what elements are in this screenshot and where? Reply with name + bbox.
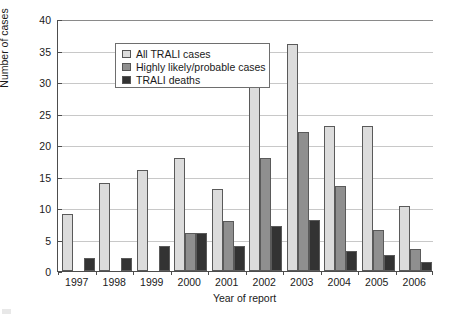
x-axis-tick — [58, 271, 59, 275]
y-axis-tick-label: 15 — [7, 173, 51, 183]
bar — [373, 230, 384, 271]
bar-group — [62, 19, 95, 271]
legend-swatch-icon — [122, 76, 131, 84]
bar — [196, 233, 207, 271]
legend-swatch-icon — [122, 63, 131, 71]
bar — [346, 251, 357, 271]
x-axis-tick — [96, 271, 97, 275]
x-axis-title: Year of report — [57, 292, 432, 304]
y-axis-tick-label: 35 — [7, 47, 51, 57]
bar — [212, 189, 223, 271]
legend-swatch-icon — [122, 50, 131, 58]
legend-label: TRALI deaths — [136, 74, 200, 86]
bar — [410, 249, 421, 271]
bar — [298, 132, 309, 271]
legend-label: Highly likely/probable cases — [136, 61, 266, 73]
bar — [185, 233, 196, 271]
bar-chart-figure: Number of cases 0510152025303540 1997199… — [0, 0, 452, 317]
legend-item: All TRALI cases — [122, 47, 269, 60]
bar — [362, 126, 373, 271]
x-axis-tick — [283, 271, 284, 275]
bar — [174, 158, 185, 271]
scan-artifact — [2, 309, 11, 314]
legend-item: Highly likely/probable cases — [122, 60, 269, 73]
bar — [384, 255, 395, 271]
bar — [159, 246, 170, 271]
bar — [324, 126, 335, 271]
bar — [234, 246, 245, 271]
bar — [287, 44, 298, 271]
bar-group — [399, 19, 432, 271]
x-axis-tick — [208, 271, 209, 275]
plot-area: 1997199819992000200120022003200420052006… — [57, 20, 432, 272]
x-axis-tick — [171, 271, 172, 275]
bar — [271, 226, 282, 271]
y-axis-tick-label: 40 — [7, 15, 51, 25]
x-axis-tick — [358, 271, 359, 275]
bar — [399, 206, 410, 271]
bar — [62, 214, 73, 271]
x-axis-tick — [133, 271, 134, 275]
y-axis-tick-label: 10 — [7, 204, 51, 214]
bar — [84, 258, 95, 271]
x-axis-tick — [432, 271, 433, 275]
y-axis-tick-label: 5 — [7, 236, 51, 246]
bar — [309, 220, 320, 271]
x-axis-tick — [246, 271, 247, 275]
bar — [249, 63, 260, 271]
y-axis-tick-label: 30 — [7, 78, 51, 88]
x-axis-tick — [321, 271, 322, 275]
bar — [223, 221, 234, 271]
y-axis-tick-label: 20 — [7, 141, 51, 151]
bar-group — [324, 19, 357, 271]
chart-legend: All TRALI casesHighly likely/probable ca… — [115, 43, 270, 88]
x-axis-tick-label: 2006 — [391, 276, 437, 288]
bar — [121, 258, 132, 271]
bar-group — [287, 19, 320, 271]
bar — [99, 183, 110, 271]
bar — [137, 170, 148, 271]
legend-label: All TRALI cases — [136, 48, 211, 60]
bar — [335, 186, 346, 271]
bar — [421, 262, 432, 271]
y-axis-tick-label: 0 — [7, 267, 51, 277]
bar — [260, 158, 271, 271]
legend-item: TRALI deaths — [122, 73, 269, 86]
y-axis-tick-label: 25 — [7, 110, 51, 120]
bar-group — [362, 19, 395, 271]
x-axis-tick — [396, 271, 397, 275]
